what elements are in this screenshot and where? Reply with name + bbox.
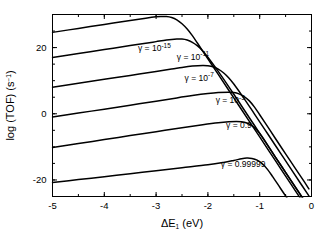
x-tick-label: -4 bbox=[100, 200, 108, 211]
curve-label-gamma-0.99999: γ = 0.99999 bbox=[221, 159, 266, 169]
y-axis-title: log (TOF) (s−1) bbox=[4, 70, 16, 140]
curve-label-gamma-1e-15: γ = 10-15 bbox=[138, 42, 171, 53]
x-tick-label: -3 bbox=[152, 200, 160, 211]
x-major-ticks bbox=[53, 15, 312, 197]
curve-label-gamma-1e-7: γ = 10-7 bbox=[185, 71, 215, 82]
curve-labels: γ = 10-15γ = 10-11γ = 10-7γ = 10-3γ = 0.… bbox=[138, 42, 266, 169]
x-minor-ticks bbox=[53, 15, 312, 197]
x-tick-label: -2 bbox=[204, 200, 212, 211]
x-tick-label: 0 bbox=[309, 200, 314, 211]
x-tick-label: -5 bbox=[48, 200, 56, 211]
curve-gamma-1e-15 bbox=[53, 16, 309, 211]
y-tick-label: -20 bbox=[33, 174, 47, 185]
x-tick-label: -1 bbox=[255, 200, 263, 211]
y-tick-label: 0 bbox=[41, 108, 46, 119]
x-tick-labels: -5-4-3-2-10 bbox=[48, 200, 314, 211]
curve-label-gamma-1e-11: γ = 10-11 bbox=[177, 50, 210, 61]
y-tick-labels: -20020 bbox=[33, 42, 47, 185]
x-axis-title: ΔE1 (eV) bbox=[161, 217, 203, 231]
chart-svg: -5-4-3-2-10 -20020 γ = 10-15γ = 10-11γ =… bbox=[0, 0, 328, 241]
y-axis-title-text: log (TOF) (s−1) bbox=[4, 70, 16, 140]
curve-gamma-1e-11 bbox=[53, 39, 309, 208]
data-curves bbox=[53, 16, 309, 213]
plot-frame bbox=[53, 15, 312, 197]
y-tick-label: 20 bbox=[36, 42, 47, 53]
y-minor-ticks bbox=[53, 15, 312, 197]
curve-label-gamma-0.9: γ = 0.9 bbox=[226, 120, 252, 130]
figure-panel: -5-4-3-2-10 -20020 γ = 10-15γ = 10-11γ =… bbox=[0, 0, 328, 241]
curve-gamma-0.9 bbox=[53, 121, 309, 207]
x-axis-title-text: ΔE1 (eV) bbox=[161, 217, 203, 231]
